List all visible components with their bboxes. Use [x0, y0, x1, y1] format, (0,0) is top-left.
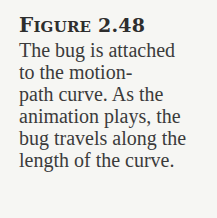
figure-caption: FIGURE 2.48 The bug is attached to the m… — [19, 13, 214, 171]
caption-line: to the motion- — [19, 61, 214, 83]
figure-label-initial: F — [19, 13, 33, 37]
caption-line: length of the curve. — [19, 149, 214, 171]
figure-label-rest: IGURE — [33, 18, 91, 36]
figure-number: 2.48 — [98, 14, 145, 36]
caption-line: The bug is attached — [19, 39, 214, 61]
caption-line: path curve. As the — [19, 83, 214, 105]
caption-text: The bug is attached to the motion- path … — [19, 39, 214, 171]
figure-label: FIGURE 2.48 — [19, 13, 214, 39]
caption-line: animation plays, the — [19, 105, 214, 127]
caption-line: bug travels along the — [19, 127, 214, 149]
